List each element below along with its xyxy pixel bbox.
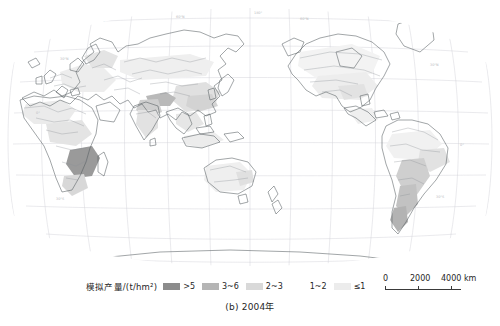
scale-bar-line — [385, 286, 461, 290]
svg-text:0°: 0° — [460, 143, 464, 147]
legend-label-2-3: 2~3 — [266, 282, 283, 291]
svg-text:30°N: 30°N — [60, 57, 69, 61]
scale-bar-rule — [385, 289, 461, 290]
scale-bar-tick-left — [385, 286, 386, 290]
scale-tick-4000: 4000 km — [441, 274, 476, 283]
svg-text:30°S: 30°S — [56, 197, 64, 201]
figure-caption: (b) 2004年 — [0, 300, 500, 313]
legend-swatch-2-3 — [246, 283, 263, 290]
figure-container: 60°N 60°N 60°N 0° 0° 60°S 60°S 30°N 30°N… — [0, 0, 500, 326]
scale-bar: 0 2000 4000 km — [383, 274, 483, 296]
scale-bar-tick-mid — [418, 286, 419, 290]
svg-text:0°: 0° — [36, 111, 40, 115]
svg-text:180°: 180° — [254, 11, 262, 15]
legend-label-le1: ≤1 — [354, 282, 366, 291]
scale-bar-tick-right — [451, 286, 452, 290]
scale-bar-numbers: 0 2000 4000 km — [383, 274, 483, 285]
legend-block: 模拟产量/(t/hm²) >5 3~6 2~3 1~2 ≤1 — [86, 276, 372, 296]
legend-swatch-3-6 — [202, 283, 219, 290]
legend-class-3-6: 3~6 — [202, 282, 239, 291]
legend-swatch-le1 — [334, 283, 351, 290]
svg-text:30°S: 30°S — [436, 195, 444, 199]
legend-swatch-gt5 — [163, 283, 180, 290]
map-svg: 60°N 60°N 60°N 0° 0° 60°S 60°S 30°N 30°N… — [0, 0, 500, 272]
legend-class-le1: ≤1 — [334, 282, 366, 291]
svg-text:60°N: 60°N — [176, 15, 185, 19]
svg-text:30°N: 30°N — [430, 63, 439, 67]
legend-class-2-3: 2~3 — [246, 282, 283, 291]
legend-label-1-2: 1~2 — [310, 282, 327, 291]
legend-class-gt5: >5 — [163, 282, 195, 291]
svg-text:60°N: 60°N — [300, 17, 309, 21]
legend-swatch-1-2 — [290, 283, 307, 290]
legend-label-3-6: 3~6 — [222, 282, 239, 291]
scale-tick-2000: 2000 — [410, 274, 430, 283]
scale-tick-0: 0 — [383, 274, 388, 283]
legend-label-gt5: >5 — [183, 282, 195, 291]
world-map: 60°N 60°N 60°N 0° 0° 60°S 60°S 30°N 30°N… — [0, 0, 500, 272]
legend-title: 模拟产量/(t/hm²) — [86, 280, 157, 292]
legend-class-1-2: 1~2 — [290, 282, 327, 291]
